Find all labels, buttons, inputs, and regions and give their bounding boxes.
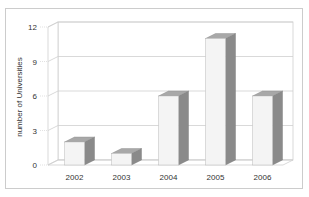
- bar-2006: [253, 91, 283, 165]
- x-tick-label: 2005: [207, 173, 225, 182]
- y-tick-label: 6: [33, 92, 38, 101]
- x-tick-label: 2002: [66, 173, 84, 182]
- y-axis-label: number of Universities: [15, 57, 24, 137]
- y-tick-label: 9: [33, 58, 38, 67]
- bar-2002: [65, 137, 95, 165]
- x-tick-label: 2004: [160, 173, 178, 182]
- bar-2005: [206, 34, 236, 166]
- x-tick-label: 2006: [254, 173, 272, 182]
- bar-chart: 036912 20022003200420052006 number of Un…: [0, 0, 309, 197]
- y-tick-label: 0: [33, 161, 38, 170]
- y-tick-label: 3: [33, 127, 38, 136]
- bar-2004: [159, 91, 189, 165]
- y-tick-label: 12: [28, 23, 37, 32]
- x-tick-label: 2003: [113, 173, 131, 182]
